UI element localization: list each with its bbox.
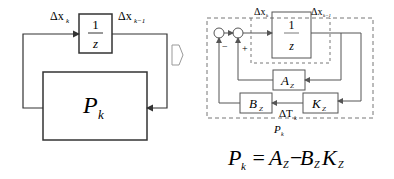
svg-text:k−1: k−1 xyxy=(134,17,145,25)
minus-sign: − xyxy=(222,41,228,52)
delta-t-label: ΔT xyxy=(279,107,293,119)
svg-text:B: B xyxy=(249,96,257,111)
svg-text:A: A xyxy=(267,145,283,170)
svg-text:1: 1 xyxy=(289,18,295,32)
svg-text:A: A xyxy=(280,73,289,88)
svg-text:Z: Z xyxy=(322,105,326,113)
svg-text:K: K xyxy=(321,145,338,170)
plant-label: P xyxy=(82,92,98,118)
sum-junction-plus xyxy=(233,28,243,38)
svg-text:=: = xyxy=(247,145,270,170)
plant-subscript: k xyxy=(98,107,104,122)
svg-text:Z: Z xyxy=(290,82,294,90)
left-feedback-diagram: 1 z P k Δx k Δx k−1 xyxy=(23,9,167,140)
svg-text:k: k xyxy=(281,131,284,137)
svg-text:Z: Z xyxy=(314,159,320,170)
equation: P k = A Z − B Z K Z xyxy=(227,145,344,172)
input-signal-label-right: Δx xyxy=(254,6,265,17)
delay-denominator: z xyxy=(92,36,98,51)
output-signal-label-right: Δx xyxy=(311,6,322,17)
right-arrow-icon xyxy=(172,45,183,65)
input-signal-label: Δx xyxy=(50,9,64,23)
az-block xyxy=(273,70,305,90)
svg-text:k: k xyxy=(66,17,70,25)
svg-text:k: k xyxy=(294,115,297,121)
right-expanded-diagram: 1 z A Z K Z B Z Δx k Δx k−1 − + ΔT k P k xyxy=(207,6,373,137)
svg-text:k: k xyxy=(266,13,269,18)
svg-text:Z: Z xyxy=(283,159,289,170)
svg-text:K: K xyxy=(311,96,322,111)
svg-text:z: z xyxy=(288,39,294,53)
plus-sign: + xyxy=(242,43,248,54)
svg-text:Z: Z xyxy=(338,159,344,170)
svg-text:B: B xyxy=(300,145,313,170)
diagram-canvas: 1 z P k Δx k Δx k−1 1 z A Z xyxy=(0,0,394,179)
svg-text:P: P xyxy=(227,145,241,170)
svg-text:k−1: k−1 xyxy=(323,13,331,18)
output-signal-label: Δx xyxy=(118,9,132,23)
delay-numerator: 1 xyxy=(92,17,99,32)
pk-group-label: P xyxy=(273,123,281,135)
sum-junction-minus xyxy=(214,28,224,38)
svg-text:Z: Z xyxy=(259,105,263,113)
